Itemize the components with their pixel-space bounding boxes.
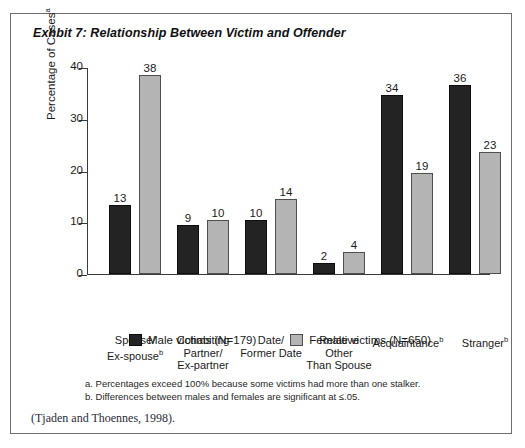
x-label-line3: Ex-partner xyxy=(161,359,245,372)
bar-male-relative[interactable]: 2 xyxy=(313,263,335,274)
bar-value-label: 34 xyxy=(386,82,399,94)
y-axis-title: Percentage of Casesa xyxy=(43,8,57,120)
x-axis-line xyxy=(87,274,490,275)
y-tick-label: 0 xyxy=(77,267,83,279)
bar-value-label: 13 xyxy=(114,192,127,204)
bar-value-label: 10 xyxy=(250,207,263,219)
legend-label-female: Female victims (N=650) xyxy=(309,334,431,346)
chart-plot-area: 0 10 20 30 40 13 38 xyxy=(87,68,490,275)
bar-value-label: 23 xyxy=(484,139,497,151)
bar-value-label: 36 xyxy=(454,72,467,84)
x-label-superscript: b xyxy=(504,335,508,344)
legend-label-male: Male victims (N=179) xyxy=(148,334,256,346)
bar-group-relative: 2 4 xyxy=(313,68,365,274)
x-label-superscript: b xyxy=(439,335,443,344)
bar-male-stranger[interactable]: 36 xyxy=(449,85,471,274)
bar-value-label: 4 xyxy=(351,239,357,251)
x-label-line2-text: Ex-spouse xyxy=(107,349,159,361)
y-tick-label: 10 xyxy=(70,215,83,227)
source-citation: (Tjaden and Thoennes, 1998). xyxy=(31,411,175,426)
y-axis-title-text: Percentage of Cases xyxy=(45,13,57,120)
y-tick-label: 30 xyxy=(70,112,83,124)
x-label-line1-text: Stranger xyxy=(462,337,504,349)
footnotes: a. Percentages exceed 100% because some … xyxy=(85,377,420,403)
y-tick-label: 20 xyxy=(70,164,83,176)
bar-group-acquaintance: 34 19 xyxy=(381,68,433,274)
bar-female-stranger[interactable]: 23 xyxy=(479,152,501,274)
bar-value-label: 9 xyxy=(185,212,191,224)
bar-male-acquaintance[interactable]: 34 xyxy=(381,95,403,274)
page-title: Exhbit 7: Relationship Between Victim an… xyxy=(33,26,346,40)
y-axis-line xyxy=(87,68,88,275)
bar-group-date: 10 14 xyxy=(245,68,297,274)
chart-legend: Male victims (N=179) Female victims (N=6… xyxy=(129,334,431,346)
bar-value-label: 19 xyxy=(416,160,429,172)
bar-value-label: 2 xyxy=(321,250,327,262)
x-label-line1: Strangerb xyxy=(445,334,525,349)
legend-item-male[interactable]: Male victims (N=179) xyxy=(129,334,256,346)
bar-group-cohabiting: 9 10 xyxy=(177,68,229,274)
bar-female-spouse[interactable]: 38 xyxy=(139,75,161,274)
bar-male-spouse[interactable]: 13 xyxy=(109,205,131,274)
bar-value-label: 38 xyxy=(144,62,157,74)
x-axis-label-stranger: Strangerb xyxy=(445,334,525,349)
bar-male-date[interactable]: 10 xyxy=(245,220,267,274)
bar-female-acquaintance[interactable]: 19 xyxy=(411,173,433,274)
bar-group-spouse: 13 38 xyxy=(109,68,161,274)
exhibit-frame: Exhbit 7: Relationship Between Victim an… xyxy=(10,13,512,434)
bar-female-cohabiting[interactable]: 10 xyxy=(207,220,229,274)
bar-female-date[interactable]: 14 xyxy=(275,199,297,274)
footnote-a: a. Percentages exceed 100% because some … xyxy=(85,377,420,390)
legend-swatch-male-icon xyxy=(129,334,142,346)
bar-male-cohabiting[interactable]: 9 xyxy=(177,225,199,274)
bar-group-stranger: 36 23 xyxy=(449,68,501,274)
y-tick-label: 40 xyxy=(70,60,83,72)
bar-female-relative[interactable]: 4 xyxy=(343,252,365,274)
bar-value-label: 10 xyxy=(212,207,225,219)
footnote-b: b. Differences between males and females… xyxy=(85,390,420,403)
bar-value-label: 14 xyxy=(280,186,293,198)
y-axis-title-superscript: a xyxy=(43,8,52,12)
legend-swatch-female-icon xyxy=(290,334,303,346)
legend-item-female[interactable]: Female victims (N=650) xyxy=(290,334,431,346)
x-label-line3: Than Spouse xyxy=(297,359,381,372)
